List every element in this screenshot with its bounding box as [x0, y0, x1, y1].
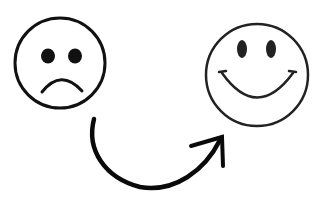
sad-face-icon [15, 18, 105, 108]
illustration-svg [0, 0, 322, 206]
happy-face-icon [206, 24, 308, 126]
illustration-canvas [0, 0, 322, 206]
curved-arrow-icon [92, 119, 223, 188]
